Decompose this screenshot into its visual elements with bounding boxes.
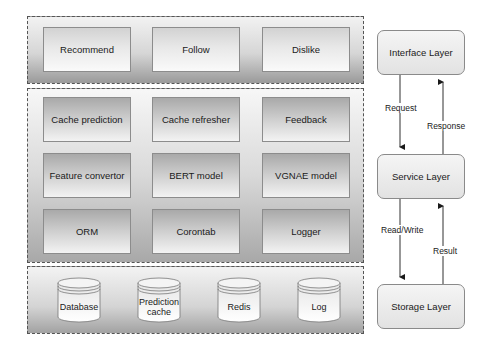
- result-label: Result: [432, 246, 458, 256]
- layer-label: Service Layer: [392, 171, 450, 182]
- layer-label: Storage Layer: [391, 301, 451, 312]
- read-write-label: Read/Write: [380, 225, 424, 235]
- interface-layer-box: Interface Layer: [377, 30, 465, 75]
- response-label: Response: [426, 121, 466, 131]
- storage-layer-box: Storage Layer: [377, 284, 465, 329]
- service-layer-box: Service Layer: [377, 154, 465, 199]
- request-label: Request: [384, 103, 418, 113]
- layer-label: Interface Layer: [389, 47, 452, 58]
